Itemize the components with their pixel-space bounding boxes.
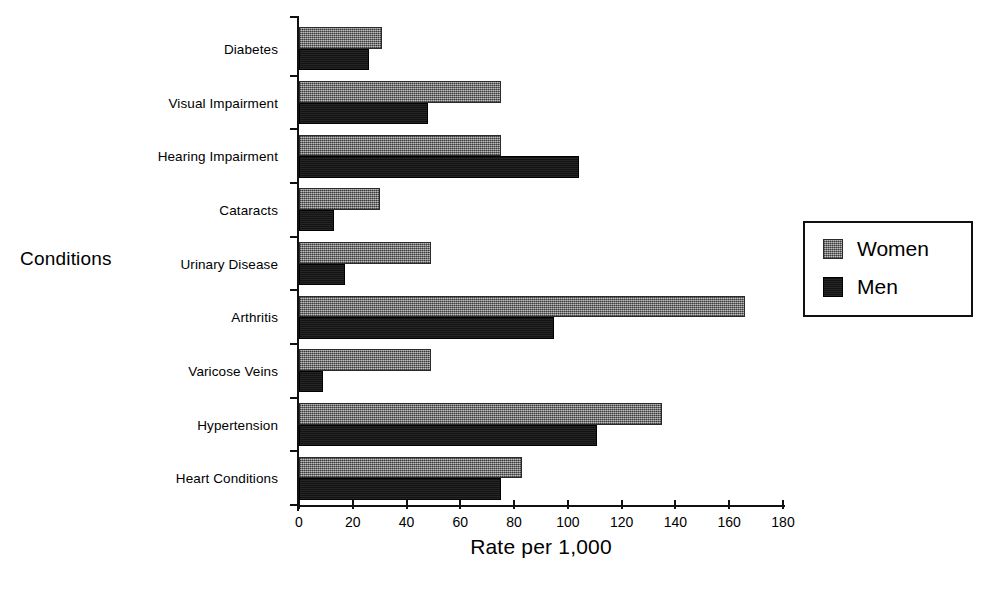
bar-women xyxy=(299,27,382,49)
x-axis-tick xyxy=(513,500,515,509)
y-axis-tick xyxy=(290,397,299,399)
x-axis-tick-label: 80 xyxy=(506,514,522,530)
bar-men xyxy=(299,371,323,393)
legend-item-women: Women xyxy=(823,237,929,261)
y-axis-category-labels: DiabetesVisual ImpairmentHearing Impairm… xyxy=(0,22,288,505)
y-axis-tick xyxy=(290,450,299,452)
y-axis-tick-top xyxy=(290,16,299,18)
bar-men xyxy=(299,478,501,500)
bar-women xyxy=(299,81,501,103)
x-axis-tick-label: 120 xyxy=(610,514,633,530)
legend-item-men: Men xyxy=(823,275,898,299)
bar-women xyxy=(299,135,501,157)
y-axis-tick xyxy=(290,75,299,77)
x-axis-tick xyxy=(728,500,730,509)
y-axis-tick xyxy=(290,236,299,238)
bar-men xyxy=(299,49,369,71)
bar-women xyxy=(299,349,431,371)
bar-women xyxy=(299,403,662,425)
x-axis-line xyxy=(297,505,785,507)
y-axis-tick xyxy=(290,504,299,506)
y-axis-category-label: Urinary Disease xyxy=(180,256,278,271)
plot-area: 020406080100120140160180 xyxy=(299,22,783,505)
y-axis-category-label: Visual Impairment xyxy=(169,95,279,110)
x-axis-title: Rate per 1,000 xyxy=(299,535,783,559)
men-swatch-icon xyxy=(823,277,843,297)
chart-legend: Women Men xyxy=(803,221,973,317)
x-axis-tick-label: 160 xyxy=(718,514,741,530)
y-axis-tick xyxy=(290,128,299,130)
x-axis-tick-label: 180 xyxy=(771,514,794,530)
x-axis-tick xyxy=(406,500,408,509)
y-axis-category-label: Cataracts xyxy=(219,202,278,217)
y-axis-category-label: Hypertension xyxy=(197,417,278,432)
x-axis-tick-label: 60 xyxy=(453,514,469,530)
y-axis-category-label: Arthritis xyxy=(231,310,278,325)
bar-men xyxy=(299,210,334,232)
bar-men xyxy=(299,264,345,286)
bar-women xyxy=(299,457,522,479)
x-axis-tick-label: 0 xyxy=(295,514,303,530)
bar-men xyxy=(299,103,428,125)
x-axis-tick xyxy=(567,500,569,509)
y-axis-category-label: Heart Conditions xyxy=(176,471,278,486)
bar-women xyxy=(299,296,745,318)
women-swatch-icon xyxy=(823,239,843,259)
bar-women xyxy=(299,188,380,210)
x-axis-tick-label: 100 xyxy=(556,514,579,530)
bar-men xyxy=(299,317,554,339)
x-axis-tick xyxy=(459,500,461,509)
x-axis-tick xyxy=(674,500,676,509)
x-axis-tick xyxy=(621,500,623,509)
y-axis-category-label: Varicose Veins xyxy=(188,363,278,378)
y-axis-tick xyxy=(290,289,299,291)
x-axis-tick-label: 140 xyxy=(664,514,687,530)
legend-label-men: Men xyxy=(857,275,898,299)
bar-chart: Conditions DiabetesVisual ImpairmentHear… xyxy=(0,0,987,589)
legend-label-women: Women xyxy=(857,237,929,261)
x-axis-tick-label: 20 xyxy=(345,514,361,530)
x-axis-tick xyxy=(352,500,354,509)
bar-women xyxy=(299,242,431,264)
bar-men xyxy=(299,156,579,178)
y-axis-category-label: Diabetes xyxy=(224,41,278,56)
bar-men xyxy=(299,425,597,447)
x-axis-tick xyxy=(782,500,784,509)
y-axis-category-label: Hearing Impairment xyxy=(158,149,278,164)
y-axis-tick xyxy=(290,343,299,345)
x-axis-tick-label: 40 xyxy=(399,514,415,530)
y-axis-tick xyxy=(290,182,299,184)
